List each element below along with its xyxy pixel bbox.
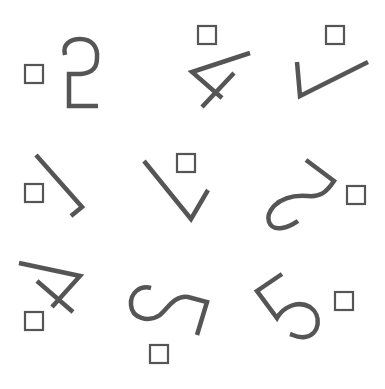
- glyph-canvas: [0, 0, 385, 389]
- square-marker-icon: [198, 26, 216, 44]
- square-marker-icon: [335, 292, 353, 310]
- square-marker-icon: [347, 186, 365, 204]
- square-marker-icon: [25, 65, 43, 83]
- glyph-6: [268, 160, 365, 228]
- rotated-2-stroke: [131, 287, 207, 335]
- glyph-7: [19, 263, 80, 330]
- rotated-check-stroke: [297, 62, 368, 96]
- glyph-grid: [0, 0, 385, 389]
- square-marker-icon: [25, 184, 43, 202]
- mirrored-2-stroke: [64, 39, 98, 106]
- rotated-4-stroke: [19, 263, 80, 312]
- glyph-1: [25, 39, 98, 106]
- square-marker-icon: [326, 26, 344, 44]
- square-marker-icon: [150, 345, 168, 363]
- glyph-2: [192, 26, 250, 107]
- rotated-2-stroke: [268, 160, 334, 228]
- glyph-8: [131, 287, 207, 363]
- glyph-9: [257, 274, 353, 337]
- rotated-5-stroke: [257, 274, 318, 337]
- square-marker-icon: [177, 154, 195, 172]
- rotated-4-stroke: [192, 53, 250, 107]
- glyph-4: [25, 155, 82, 216]
- glyph-5: [144, 154, 208, 219]
- square-marker-icon: [25, 312, 43, 330]
- glyph-3: [297, 26, 368, 96]
